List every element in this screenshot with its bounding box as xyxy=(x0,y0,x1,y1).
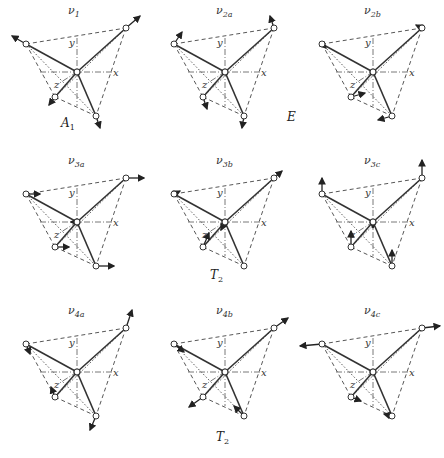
outer-atom-l xyxy=(23,191,29,197)
x-axis-label: x xyxy=(113,217,119,228)
mode-label-v2a: ν2a xyxy=(216,4,233,19)
symmetry-label-e-1: E xyxy=(287,110,296,124)
y-axis-label: y xyxy=(364,37,371,48)
y-axis-label: y xyxy=(364,337,371,348)
mode-label-v3b: ν3b xyxy=(216,154,233,169)
mode-label-v3a: ν3a xyxy=(68,154,85,169)
z-axis-label: z xyxy=(349,229,356,240)
mode-panel-v4b: yxzν4b xyxy=(148,300,296,450)
y-axis-label: y xyxy=(216,37,223,48)
x-axis-label: x xyxy=(113,67,119,78)
outer-atom-b xyxy=(389,263,395,269)
outer-atom-tr xyxy=(419,175,425,181)
x-axis-label: x xyxy=(261,67,267,78)
mode-label-v4c: ν4c xyxy=(364,304,380,319)
z-axis-label: z xyxy=(53,79,60,90)
y-axis-label: y xyxy=(68,187,75,198)
y-axis-label: y xyxy=(68,337,75,348)
bond-b xyxy=(77,372,96,416)
outer-atom-bl xyxy=(52,244,58,250)
outer-atom-tr xyxy=(419,325,425,331)
central-atom xyxy=(222,69,228,75)
tetrahedron-diagram: yxz xyxy=(0,300,148,450)
outer-atom-b xyxy=(93,413,99,419)
outer-atom-bl xyxy=(348,394,354,400)
outer-atom-b xyxy=(389,113,395,119)
mode-panel-v4a: yxzν4a xyxy=(0,300,148,450)
outer-atom-bl xyxy=(200,244,206,250)
mode-panel-v3c: yxzν3c xyxy=(296,150,444,300)
z-axis-label: z xyxy=(201,79,208,90)
dotted-edge xyxy=(174,194,244,266)
outer-atom-bl xyxy=(200,394,206,400)
mode-panel-v2b: yxzν2b xyxy=(296,0,444,150)
central-atom xyxy=(222,369,228,375)
outer-atom-l xyxy=(171,41,177,47)
outer-atom-l xyxy=(171,341,177,347)
z-axis-label: z xyxy=(53,229,60,240)
central-atom xyxy=(370,219,376,225)
tetrahedron-diagram: yxz xyxy=(148,300,296,450)
outer-atom-l xyxy=(319,191,325,197)
y-axis-label: y xyxy=(364,187,371,198)
dotted-edge xyxy=(174,344,244,416)
dotted-edge xyxy=(322,344,392,416)
bond-b xyxy=(373,372,392,416)
outer-atom-tr xyxy=(123,325,129,331)
bond-b xyxy=(373,222,392,266)
x-axis-label: x xyxy=(409,67,415,78)
mode-panel-v4c: yxzν4c xyxy=(296,300,444,450)
mode-panel-v2a: yxzν2a xyxy=(148,0,296,150)
mode-label-v4b: ν4b xyxy=(216,304,233,319)
z-axis-label: z xyxy=(349,379,356,390)
z-axis-label: z xyxy=(53,379,60,390)
outer-atom-l xyxy=(23,341,29,347)
y-axis-label: y xyxy=(68,37,75,48)
symmetry-label-t2-3: T2 xyxy=(216,430,229,446)
outer-atom-b xyxy=(241,113,247,119)
bond-b xyxy=(77,72,96,116)
central-atom xyxy=(222,219,228,225)
outer-atom-tr xyxy=(271,25,277,31)
x-axis-label: x xyxy=(409,217,415,228)
outer-atom-bl xyxy=(348,94,354,100)
tetrahedron-diagram: yxz xyxy=(148,0,296,150)
dotted-edge xyxy=(26,194,96,266)
dotted-edge xyxy=(26,344,96,416)
outer-atom-bl xyxy=(348,244,354,250)
z-axis-label: z xyxy=(349,79,356,90)
outer-atom-l xyxy=(319,41,325,47)
bond-b xyxy=(77,222,96,266)
central-atom xyxy=(74,69,80,75)
y-axis-label: y xyxy=(216,337,223,348)
outer-atom-bl xyxy=(52,94,58,100)
mode-panel-v3a: yxzν3a xyxy=(0,150,148,300)
bond-b xyxy=(225,222,244,266)
central-atom xyxy=(370,69,376,75)
x-axis-label: x xyxy=(409,367,415,378)
tetrahedron-diagram: yxz xyxy=(296,300,444,450)
dotted-edge xyxy=(26,44,96,116)
outer-atom-b xyxy=(241,413,247,419)
dotted-edge xyxy=(322,44,392,116)
bond-b xyxy=(373,72,392,116)
outer-atom-tr xyxy=(271,325,277,331)
y-axis-label: y xyxy=(216,187,223,198)
outer-atom-l xyxy=(171,191,177,197)
outer-atom-bl xyxy=(200,94,206,100)
outer-atom-l xyxy=(23,41,29,47)
central-atom xyxy=(74,369,80,375)
z-axis-label: z xyxy=(201,379,208,390)
outer-atom-tr xyxy=(419,25,425,31)
central-atom xyxy=(370,369,376,375)
outer-atom-b xyxy=(93,113,99,119)
outer-atom-bl xyxy=(52,394,58,400)
outer-atom-b xyxy=(389,413,395,419)
outer-atom-tr xyxy=(123,175,129,181)
central-atom xyxy=(74,219,80,225)
tetrahedron-diagram: yxz xyxy=(296,0,444,150)
mode-label-v1: ν1 xyxy=(68,4,80,19)
outer-atom-b xyxy=(241,263,247,269)
bond-b xyxy=(225,72,244,116)
symmetry-label-a1-0: A1 xyxy=(61,116,75,132)
